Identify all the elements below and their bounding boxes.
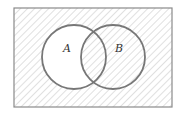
shaded-region [14,8,172,107]
venn-diagram: A B [0,0,179,113]
set-a-label: A [62,42,71,55]
set-b-label: B [114,42,123,55]
